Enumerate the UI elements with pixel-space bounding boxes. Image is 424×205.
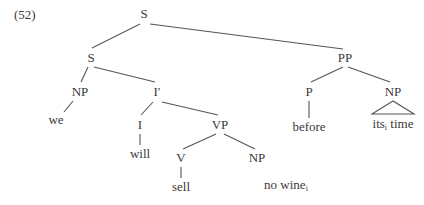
tree-node-ibar: I′	[153, 85, 160, 99]
tree-node-v: V	[176, 151, 185, 165]
example-number: (52)	[14, 8, 36, 22]
tree-branch	[348, 67, 390, 82]
tree-node-s1: S	[87, 51, 94, 65]
tree-branch	[183, 134, 216, 149]
triangle-abbreviation	[372, 101, 414, 114]
tree-node-nowine: no winei	[264, 178, 308, 196]
tree-branch	[64, 101, 73, 112]
coindex-subscript: i	[306, 184, 308, 193]
tree-node-i: I	[138, 118, 142, 132]
tree-branch	[311, 67, 343, 82]
tree-node-np3: NP	[385, 85, 402, 99]
tree-branch	[162, 102, 218, 115]
tree-node-sell: sell	[172, 180, 190, 194]
tree-branch	[150, 24, 343, 49]
tree-branches	[0, 0, 424, 205]
tree-node-we: we	[48, 113, 63, 127]
tree-node-before: before	[292, 120, 325, 134]
tree-node-p: P	[305, 85, 312, 99]
tree-node-s0: S	[140, 7, 147, 21]
tree-branch	[224, 134, 255, 149]
tree-node-its: itsi time	[373, 117, 414, 135]
tree-node-vp: VP	[212, 118, 229, 132]
tree-branch	[81, 67, 88, 82]
syntax-tree-diagram: (52) SSPPNPI′PNPweIVPbeforeitsi timewill…	[0, 0, 424, 205]
tree-branch	[94, 67, 155, 82]
tree-node-pp: PP	[338, 51, 352, 65]
tree-node-will: will	[130, 147, 150, 161]
tree-node-np1: NP	[72, 85, 89, 99]
tree-branch	[141, 102, 153, 115]
tree-node-np2: NP	[249, 151, 266, 165]
tree-branch	[92, 24, 140, 48]
